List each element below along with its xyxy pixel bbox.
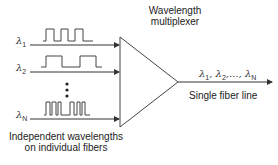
output-wavelengths: λ1, λ2,..., λN xyxy=(199,68,256,81)
input-label-2: λ2 xyxy=(16,62,26,75)
multiplexer-label-line1: Wavelength xyxy=(140,5,210,16)
multiplexer-triangle xyxy=(120,37,178,127)
input-caption-line1: Independent wavelengths xyxy=(0,131,132,142)
input-caption-line2: on individual fibers xyxy=(0,142,132,153)
input-label-n: λN xyxy=(16,109,27,122)
multiplexer-label: Wavelength multiplexer xyxy=(140,5,210,27)
pulse-train-2 xyxy=(41,56,102,67)
ellipsis-dots xyxy=(65,82,68,97)
pulse-train-n xyxy=(44,102,90,115)
output-label: Single fiber line xyxy=(189,90,257,101)
multiplexer-label-line2: multiplexer xyxy=(140,16,210,27)
input-label-1: λ1 xyxy=(16,35,26,48)
pulse-train-1 xyxy=(43,29,93,41)
input-caption: Independent wavelengths on individual fi… xyxy=(0,131,132,153)
